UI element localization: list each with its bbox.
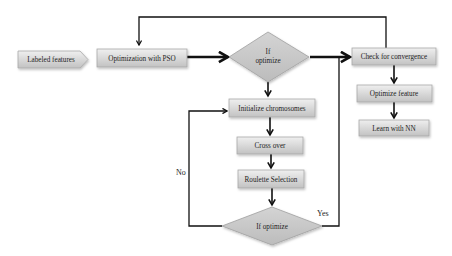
decision-top-label-line1: If (266, 48, 271, 56)
init-chromosomes-label: Initialize chromosomes (238, 105, 305, 113)
labeled-features-label: Labeled features (27, 56, 75, 64)
node-pso: Optimization with PSO (97, 49, 187, 67)
node-cross-over: Cross over (237, 137, 303, 154)
roulette-label: Roulette Selection (245, 176, 298, 184)
node-decision-top: If optimize (229, 32, 309, 82)
node-labeled-features: Labeled features (18, 51, 88, 68)
node-check-convergence: Check for convergence (352, 48, 436, 65)
decision-bottom-label: If optimize (256, 223, 288, 231)
yes-branch-connector (322, 57, 339, 226)
node-roulette: Roulette Selection (238, 170, 304, 188)
node-optimize-feature: Optimize feature (357, 85, 432, 102)
no-branch-connector (189, 111, 227, 226)
learn-nn-label: Learn with NN (372, 125, 416, 133)
check-convergence-label: Check for convergence (361, 53, 428, 61)
node-learn-nn: Learn with NN (359, 120, 429, 136)
yes-label: Yes (317, 209, 329, 218)
optimize-feature-label: Optimize feature (370, 90, 419, 98)
pso-label: Optimization with PSO (108, 55, 176, 63)
node-decision-bottom: If optimize (222, 207, 322, 245)
decision-top-label-line2: optimize (255, 57, 280, 65)
flowchart: Labeled features Optimization with PSO I… (0, 0, 452, 256)
node-init-chromosomes: Initialize chromosomes (229, 99, 315, 117)
no-label: No (176, 168, 186, 177)
cross-over-label: Cross over (255, 142, 287, 150)
